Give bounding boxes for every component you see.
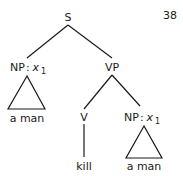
np-subscript: 1 <box>155 117 160 126</box>
edge-vp-v <box>84 75 112 109</box>
triangle-np-object <box>126 126 162 158</box>
np-category: NP <box>124 111 139 124</box>
edge-s-vp <box>68 25 112 58</box>
page-number: 38 <box>163 9 177 22</box>
np-subject-yield: a man <box>10 112 45 125</box>
np-variable: x <box>146 111 154 124</box>
np-separator: : <box>140 111 144 124</box>
node-np-object: NP:x1 <box>124 111 160 126</box>
triangle-np-subject <box>8 76 45 109</box>
node-vp: VP <box>105 61 120 74</box>
svg-text:NP:x1: NP:x1 <box>10 61 46 76</box>
node-v: V <box>80 111 88 124</box>
np-subscript: 1 <box>41 67 46 76</box>
svg-text:NP:x1: NP:x1 <box>124 111 160 126</box>
np-category: NP <box>10 61 25 74</box>
np-variable: x <box>32 61 40 74</box>
edge-s-np <box>27 25 68 58</box>
verb-word: kill <box>76 160 92 173</box>
node-s: S <box>65 11 72 24</box>
edge-vp-np <box>112 75 140 106</box>
np-separator: : <box>26 61 30 74</box>
node-np-subject: NP:x1 <box>10 61 46 76</box>
syntax-tree-diagram: 38 S NP:x1 a man VP V kill NP:x1 a man <box>0 0 183 176</box>
np-object-yield: a man <box>127 160 162 173</box>
